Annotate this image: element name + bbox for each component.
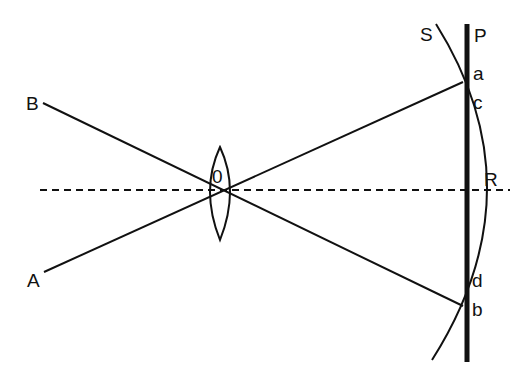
ray-a <box>44 82 463 272</box>
label-r: R <box>484 169 498 190</box>
label-a: A <box>27 270 40 291</box>
label-s: S <box>420 24 433 45</box>
label-b: B <box>26 93 39 114</box>
optics-diagram: B A 0 S P a c R d b <box>0 0 523 376</box>
ray-b <box>43 103 463 306</box>
label-o: 0 <box>212 166 223 187</box>
label-b-point: b <box>472 299 483 320</box>
label-d: d <box>472 270 483 291</box>
label-a-point: a <box>473 63 484 84</box>
label-c: c <box>473 92 483 113</box>
lens <box>210 147 230 240</box>
label-p: P <box>474 25 487 46</box>
